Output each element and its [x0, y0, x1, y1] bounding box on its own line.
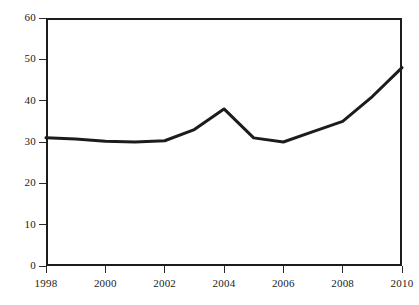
y-tick-label: 40 [0, 95, 36, 106]
y-tick-mark [39, 224, 46, 225]
line-chart: 0102030405060 19982000200220042006200820… [0, 0, 419, 305]
y-tick-mark [39, 18, 46, 19]
x-tick-label: 2004 [197, 277, 251, 289]
x-tick-label: 2008 [316, 277, 370, 289]
x-tick-mark [342, 266, 343, 273]
y-tick-label-text: 10 [2, 219, 36, 230]
y-tick-label: 10 [0, 219, 36, 230]
y-tick-mark [39, 183, 46, 184]
y-tick-label: 20 [0, 177, 36, 188]
x-tick-label: 2010 [375, 277, 419, 289]
x-tick-mark [164, 266, 165, 273]
y-tick-mark [39, 59, 46, 60]
y-tick-label: 60 [0, 12, 36, 23]
x-tick-mark [283, 266, 284, 273]
data-line-series-1 [46, 68, 402, 142]
y-tick-label-text: 30 [2, 136, 36, 147]
y-tick-label: 50 [0, 53, 36, 64]
y-tick-label-text: 60 [2, 12, 36, 23]
series-layer [46, 18, 402, 266]
y-tick-label-text: 20 [2, 177, 36, 188]
x-tick-mark [402, 266, 403, 273]
y-tick-mark [39, 142, 46, 143]
x-tick-mark [105, 266, 106, 273]
y-tick-label: 0 [0, 260, 36, 271]
x-tick-label: 2002 [138, 277, 192, 289]
y-tick-mark [39, 100, 46, 101]
x-tick-mark [46, 266, 47, 273]
x-tick-label: 2006 [256, 277, 310, 289]
x-tick-label: 2000 [78, 277, 132, 289]
y-tick-label-text: 50 [2, 53, 36, 64]
x-tick-mark [224, 266, 225, 273]
y-tick-label: 30 [0, 136, 36, 147]
y-tick-label-text: 40 [2, 95, 36, 106]
y-tick-label-text: 0 [2, 260, 36, 271]
x-tick-label: 1998 [19, 277, 73, 289]
